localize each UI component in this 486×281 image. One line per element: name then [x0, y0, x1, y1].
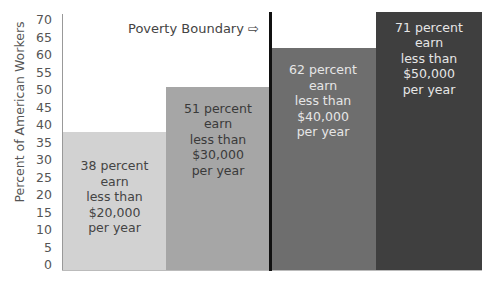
y-axis-label: Percent of American Workers — [12, 73, 27, 203]
y-tick-label: 10 — [28, 223, 52, 237]
y-tick-label: 15 — [28, 206, 52, 220]
bar-label: 71 percent earn less than $50,000 per ye… — [376, 20, 482, 98]
bar-label: 51 percent earn less than $30,000 per ye… — [166, 101, 270, 179]
bar: 38 percent earn less than $20,000 per ye… — [63, 132, 166, 270]
y-tick-label: 35 — [28, 136, 52, 150]
y-tick-label: 50 — [28, 83, 52, 97]
y-tick-label: 55 — [28, 66, 52, 80]
poverty-boundary-line — [269, 12, 272, 271]
bar: 62 percent earn less than $40,000 per ye… — [270, 48, 376, 270]
x-axis-line — [62, 270, 482, 271]
y-tick-label: 65 — [28, 31, 52, 45]
bar: 71 percent earn less than $50,000 per ye… — [376, 12, 482, 271]
y-tick-label: 20 — [28, 188, 52, 202]
bar: 51 percent earn less than $30,000 per ye… — [166, 87, 270, 271]
bar-label: 62 percent earn less than $40,000 per ye… — [270, 62, 376, 140]
bar-label: 38 percent earn less than $20,000 per ye… — [63, 158, 166, 236]
y-tick-label: 30 — [28, 153, 52, 167]
y-tick-label: 70 — [28, 13, 52, 27]
y-tick-label: 45 — [28, 101, 52, 115]
y-tick-label: 40 — [28, 118, 52, 132]
y-tick-label: 0 — [28, 258, 52, 272]
y-tick-label: 60 — [28, 48, 52, 62]
y-tick-label: 5 — [28, 241, 52, 255]
poverty-boundary-annotation: Poverty Boundary ⇨ — [128, 21, 259, 36]
y-tick-label: 25 — [28, 171, 52, 185]
